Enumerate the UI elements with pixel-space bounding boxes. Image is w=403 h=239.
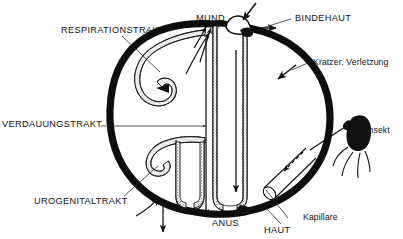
label-mund: MUND bbox=[196, 14, 225, 23]
label-insekt: Insekt bbox=[366, 126, 390, 135]
label-respirationstrakt: RESPIRATIONSTRAKT bbox=[61, 26, 165, 35]
label-haut: HAUT bbox=[264, 226, 290, 235]
label-anus: ANUS bbox=[212, 219, 239, 228]
label-kapillare: Kapillare bbox=[303, 213, 338, 222]
label-kratzer-verletzung: Kratzer, Verletzung bbox=[313, 58, 388, 67]
label-bindehaut: BINDEHAUT bbox=[295, 14, 351, 23]
pathogen-entry-diagram: RESPIRATIONSTRAKT MUND BINDEHAUT Kratzer… bbox=[0, 0, 403, 239]
label-urogenitaltrakt: UROGENITALTRAKT bbox=[34, 197, 128, 206]
digestive-tract bbox=[213, 26, 253, 214]
label-verdauungstrakt: VERDAUUNGSTRAKT bbox=[2, 120, 102, 129]
skin-boundary bbox=[110, 23, 330, 214]
